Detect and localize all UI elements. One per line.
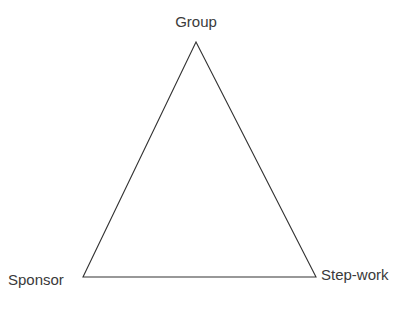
- vertex-label-sponsor: Sponsor: [8, 271, 64, 289]
- triangle-outline: [83, 42, 316, 277]
- triangle-diagram: Group Sponsor Step-work: [0, 0, 407, 312]
- vertex-label-group: Group: [175, 13, 217, 31]
- vertex-label-step-work: Step-work: [321, 266, 389, 284]
